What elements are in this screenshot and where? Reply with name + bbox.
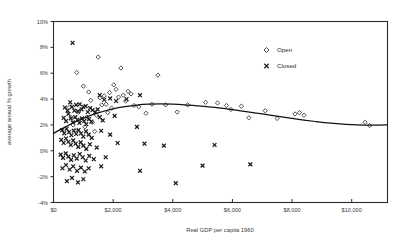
legend-label-open: Open: [277, 46, 293, 53]
y-tick-label: 2%: [40, 122, 48, 128]
y-tick-label: 10%: [37, 19, 48, 25]
chart-legend: Open Closed: [249, 40, 335, 76]
scatter-plot-svg: 10%8%6%4%2%0%-2%-4% $0$2,000$4,000$6,000…: [0, 0, 409, 245]
x-tick-label: $8,000: [284, 207, 301, 213]
x-tick-label: $6,000: [224, 207, 241, 213]
x-axis-title: Real GDP per capita 1960: [186, 227, 254, 233]
legend-label-closed: Closed: [277, 62, 297, 69]
x-tick-label: $2,000: [105, 207, 122, 213]
y-tick-label: -4%: [38, 200, 48, 206]
scatter-chart-container: 10%8%6%4%2%0%-2%-4% $0$2,000$4,000$6,000…: [0, 0, 409, 245]
y-tick-label: 4%: [40, 96, 48, 102]
y-tick-label: -2%: [38, 174, 48, 180]
y-tick-label: 8%: [40, 44, 48, 50]
x-tick-label: $10,000: [342, 207, 362, 213]
plot-area-frame: [54, 22, 388, 203]
y-tick-label: 0%: [40, 148, 48, 154]
x-tick-label: $4,000: [164, 207, 181, 213]
y-tick-label: 6%: [40, 70, 48, 76]
x-tick-label: $0: [50, 207, 56, 213]
y-axis-title: average annual % growth: [6, 79, 12, 145]
